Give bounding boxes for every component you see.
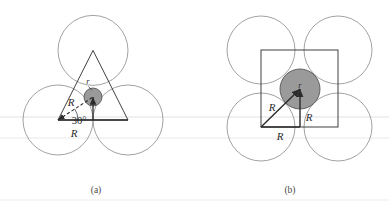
scanline-lower	[0, 137, 389, 139]
scanline-upper	[0, 116, 389, 118]
scanline-bottom	[0, 199, 389, 201]
geometry-figure: r R R 30° (a)	[0, 0, 389, 207]
panel-b-caption: (b)	[284, 185, 295, 196]
figure-container: r R R 30° (a)	[0, 0, 389, 207]
page-background	[0, 0, 389, 207]
panel-a-base-radius-label: R	[70, 127, 78, 139]
panel-a-diagonal-radius-label: R	[67, 96, 75, 108]
panel-a-caption: (a)	[91, 185, 102, 196]
panel-a-angle-label: 30°	[72, 115, 87, 126]
panel-b-vertical-radius-label: R	[305, 111, 313, 123]
panel-b-diagonal-radius-label: R	[268, 101, 276, 113]
panel-b-base-radius-label: R	[276, 130, 284, 142]
